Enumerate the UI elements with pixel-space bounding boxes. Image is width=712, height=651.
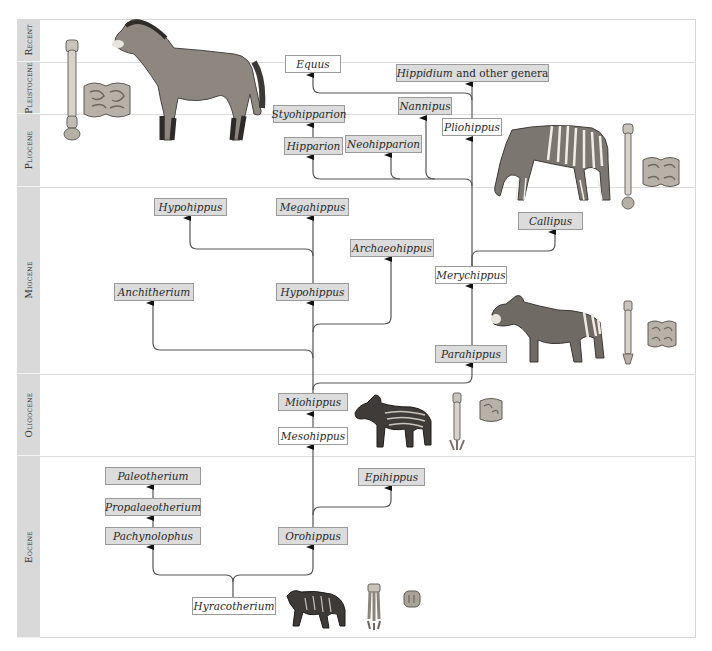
taxon-label: Hypohippus <box>281 286 345 298</box>
mesohippus-molar-tooth-icon <box>478 396 504 424</box>
taxon-label: Pachynolophus <box>113 530 193 542</box>
taxon-megahippus: Megahippus <box>276 198 349 216</box>
hyracotherium-foot-bone-icon <box>365 583 383 631</box>
pliohippus-foot-bone-icon <box>620 123 636 211</box>
taxon-paleotherium: Paleotherium <box>105 467 201 485</box>
taxon-label: Orohippus <box>285 530 341 542</box>
taxon-callipus: Callipus <box>518 212 583 230</box>
taxon-label: Equus <box>296 58 329 70</box>
taxon-hypohippus-lower: Hypohippus <box>276 283 349 301</box>
taxon-label: Neohipparion <box>347 138 420 150</box>
taxon-hypohippus-upper: Hypohippus <box>154 198 227 216</box>
taxon-equus: Equus <box>285 55 341 73</box>
taxon-pachynolophus: Pachynolophus <box>105 527 201 545</box>
taxon-hippidium: Hippidium and other genera <box>396 64 549 82</box>
taxon-anchitherium: Anchitherium <box>114 283 194 301</box>
taxon-neohipparion: Neohipparion <box>345 135 422 153</box>
taxon-label: Merychippus <box>436 269 506 281</box>
taxon-archaeohippus: Archaeohippus <box>350 239 434 257</box>
pliohippus-molar-tooth-icon <box>640 154 682 190</box>
taxon-nannipus: Nannipus <box>398 97 452 115</box>
taxon-propalaeotherium: Propalaeotherium <box>105 498 201 516</box>
taxon-label-suffix: and other genera <box>453 67 548 79</box>
mesohippus-foot-bone-icon <box>448 392 466 452</box>
taxon-miohippus: Miohippus <box>278 393 348 411</box>
taxon-label: Archaeohippus <box>352 242 432 254</box>
taxon-mesohippus: Mesohippus <box>278 427 348 445</box>
taxon-merychippus: Merychippus <box>435 266 507 284</box>
taxon-orohippus: Orohippus <box>278 527 348 545</box>
merychippus-horse-icon <box>488 288 608 368</box>
merychippus-foot-bone-icon <box>620 300 636 366</box>
taxon-label: Hypohippus <box>159 201 223 213</box>
taxon-hipparion: Hipparion <box>284 137 343 155</box>
taxon-label: Mesohippus <box>281 430 345 442</box>
mesohippus-horse-icon <box>353 391 435 451</box>
merychippus-molar-tooth-icon <box>645 318 679 350</box>
hyracotherium-animal-icon <box>285 584 349 630</box>
taxon-label: Hyracotherium <box>194 600 275 612</box>
taxon-epihippus: Epihippus <box>358 468 425 486</box>
taxon-label: Callipus <box>529 215 572 227</box>
taxon-label: Styohipparion <box>272 108 347 120</box>
taxon-label: Megahippus <box>280 201 346 213</box>
taxon-label: Nannipus <box>399 100 450 112</box>
horse-evolution-diagram: Recent Pleistocene Pliocene Miocene Olig… <box>0 0 712 651</box>
taxon-label: Anchitherium <box>118 286 191 298</box>
equus-horse-icon <box>102 8 266 148</box>
taxon-label: Miohippus <box>285 396 341 408</box>
pliohippus-grazing-horse-icon <box>492 120 614 208</box>
taxon-label: Paleotherium <box>117 470 188 482</box>
taxon-styohipparion: Styohipparion <box>273 105 345 123</box>
taxon-hyracotherium: Hyracotherium <box>192 597 276 615</box>
taxon-label: Hippidium <box>397 67 453 79</box>
taxon-label: Propalaeotherium <box>105 501 201 513</box>
taxon-label: Hipparion <box>287 140 341 152</box>
taxon-label: Epihippus <box>365 471 418 483</box>
hyracotherium-molar-tooth-icon <box>403 590 421 608</box>
